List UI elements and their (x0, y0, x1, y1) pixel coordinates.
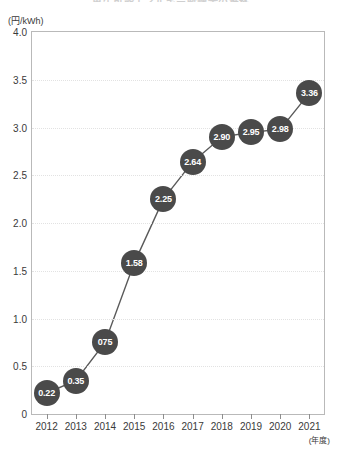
x-axis-tick-label: 2012 (35, 421, 57, 432)
y-axis-tick-label: 3.5 (13, 74, 27, 85)
gridline (32, 319, 324, 320)
data-point-marker: 2.64 (180, 149, 206, 175)
y-axis-tick-label: 3.0 (13, 122, 27, 133)
y-axis-tick-label: 1.5 (13, 265, 27, 276)
y-axis-unit-label: (円/kWh) (8, 14, 44, 27)
y-axis-tick-label: 0 (21, 409, 27, 420)
x-axis-tick (309, 414, 310, 419)
x-axis-note: (年度) (309, 434, 330, 445)
x-axis-tick-label: 2020 (269, 421, 291, 432)
y-axis-tick-label: 0.5 (13, 361, 27, 372)
x-axis-tick-label: 2019 (240, 421, 262, 432)
x-axis-tick (76, 414, 77, 419)
x-axis-tick-label: 2016 (152, 421, 174, 432)
gridline (32, 271, 324, 272)
data-point-marker: 0.35 (63, 368, 89, 394)
x-axis-tick (47, 414, 48, 419)
chart-title: 再生可能エネルギー賦課金の推移 (0, 0, 342, 2)
y-axis-tick-label: 2.0 (13, 218, 27, 229)
x-axis-tick-label: 2017 (181, 421, 203, 432)
plot-area: 4.03.53.02.52.01.51.00.50201220132014201… (31, 31, 325, 415)
data-point-marker: 2.90 (209, 124, 235, 150)
x-axis-tick-label: 2013 (65, 421, 87, 432)
x-axis-tick (280, 414, 281, 419)
y-axis-tick-label: 1.0 (13, 313, 27, 324)
gridline (32, 175, 324, 176)
x-axis-tick-label: 2021 (298, 421, 320, 432)
y-axis-tick-label: 2.5 (13, 170, 27, 181)
x-axis-tick (251, 414, 252, 419)
x-axis-tick-label: 2014 (94, 421, 116, 432)
y-axis-tick-label: 4.0 (13, 27, 27, 38)
x-axis-tick (193, 414, 194, 419)
x-axis-tick-label: 2018 (211, 421, 233, 432)
x-axis-tick (222, 414, 223, 419)
gridline (32, 80, 324, 81)
x-axis-tick-label: 2015 (123, 421, 145, 432)
data-point-marker: 0.22 (34, 380, 60, 406)
x-axis-tick (134, 414, 135, 419)
x-axis-tick (105, 414, 106, 419)
gridline (32, 223, 324, 224)
x-axis-tick (163, 414, 164, 419)
